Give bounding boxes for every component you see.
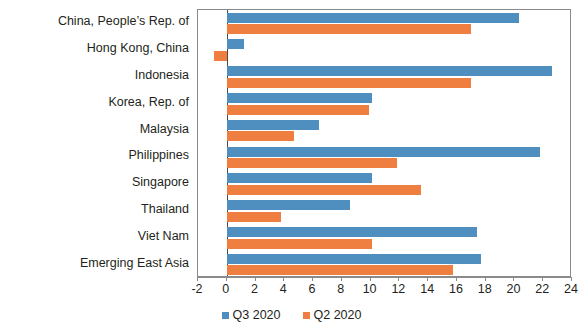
bar-q3-2020 bbox=[227, 200, 351, 210]
category-label: Thailand bbox=[0, 203, 189, 216]
bar-q2-2020 bbox=[227, 185, 421, 195]
legend-swatch-icon bbox=[222, 312, 229, 319]
category-label: Hong Kong, China bbox=[0, 42, 189, 55]
x-axis-tick bbox=[427, 277, 428, 281]
x-axis-tick-label: -2 bbox=[191, 282, 202, 296]
legend-item[interactable]: Q2 2020 bbox=[303, 308, 362, 322]
x-axis-tick bbox=[255, 277, 256, 281]
x-axis-tick bbox=[312, 277, 313, 281]
x-axis-tick bbox=[513, 277, 514, 281]
bar-q3-2020 bbox=[227, 173, 372, 183]
bar-q2-2020 bbox=[227, 105, 369, 115]
x-axis-tick bbox=[341, 277, 342, 281]
bar-q2-2020 bbox=[227, 158, 397, 168]
x-axis-tick-label: 22 bbox=[535, 282, 549, 296]
x-axis-tick bbox=[485, 277, 486, 281]
bar-q2-2020 bbox=[214, 51, 227, 61]
bar-q2-2020 bbox=[227, 131, 295, 141]
category-label: Philippines bbox=[0, 149, 189, 162]
bar-q2-2020 bbox=[227, 265, 453, 275]
category-label: Indonesia bbox=[0, 69, 189, 82]
x-axis-tick bbox=[542, 277, 543, 281]
x-axis-tick-label: 12 bbox=[391, 282, 405, 296]
category-label: Emerging East Asia bbox=[0, 257, 189, 270]
category-label: Viet Nam bbox=[0, 230, 189, 243]
bar-q3-2020 bbox=[227, 227, 477, 237]
bar-q3-2020 bbox=[227, 93, 372, 103]
bar-q3-2020 bbox=[227, 254, 482, 264]
bar-q2-2020 bbox=[227, 212, 282, 222]
category-label: Korea, Rep. of bbox=[0, 96, 189, 109]
plot-area bbox=[197, 9, 571, 277]
legend-swatch-icon bbox=[303, 312, 310, 319]
x-axis-tick-label: 20 bbox=[507, 282, 521, 296]
category-label: Malaysia bbox=[0, 123, 189, 136]
x-axis-tick bbox=[283, 277, 284, 281]
x-axis-tick bbox=[571, 277, 572, 281]
x-axis-tick bbox=[456, 277, 457, 281]
x-axis-tick-label: 4 bbox=[280, 282, 287, 296]
legend-item[interactable]: Q3 2020 bbox=[222, 308, 281, 322]
bar-q2-2020 bbox=[227, 239, 372, 249]
x-axis-tick-label: 16 bbox=[449, 282, 463, 296]
category-label: Singapore bbox=[0, 176, 189, 189]
bar-q2-2020 bbox=[227, 24, 472, 34]
x-axis-tick-label: 14 bbox=[420, 282, 434, 296]
x-axis-tick-label: 24 bbox=[564, 282, 578, 296]
bar-q3-2020 bbox=[227, 147, 541, 157]
x-axis-tick-label: 18 bbox=[478, 282, 492, 296]
category-axis-labels: China, People’s Rep. ofHong Kong, ChinaI… bbox=[0, 9, 193, 277]
chart-legend: Q3 2020Q2 2020 bbox=[0, 308, 583, 322]
legend-label: Q2 2020 bbox=[314, 308, 362, 322]
x-axis-tick-label: 2 bbox=[251, 282, 258, 296]
bar-chart: China, People’s Rep. ofHong Kong, ChinaI… bbox=[0, 0, 583, 327]
bar-q3-2020 bbox=[227, 13, 519, 23]
legend-label: Q3 2020 bbox=[233, 308, 281, 322]
bar-q3-2020 bbox=[227, 39, 244, 49]
x-axis-tick bbox=[370, 277, 371, 281]
x-axis-tick bbox=[398, 277, 399, 281]
bar-q3-2020 bbox=[227, 120, 319, 130]
x-axis-tick-label: 6 bbox=[309, 282, 316, 296]
x-axis-tick bbox=[226, 277, 227, 281]
x-axis-tick bbox=[197, 277, 198, 281]
x-axis-tick-label: 8 bbox=[337, 282, 344, 296]
x-axis: -2024681012141618202224 bbox=[197, 277, 571, 278]
x-axis-tick-label: 0 bbox=[222, 282, 229, 296]
category-label: China, People’s Rep. of bbox=[0, 15, 189, 28]
x-axis-tick-label: 10 bbox=[363, 282, 377, 296]
bar-q3-2020 bbox=[227, 66, 552, 76]
bar-q2-2020 bbox=[227, 78, 472, 88]
